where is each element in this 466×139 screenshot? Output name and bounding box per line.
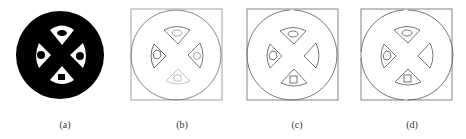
panel-d: (d) <box>348 0 464 139</box>
panel-label-a: (a) <box>45 119 85 130</box>
panel-label-d: (d) <box>392 119 432 130</box>
panel-label-c: (c) <box>277 119 317 130</box>
panel-label-b: (b) <box>162 119 202 130</box>
panel-a: (a) <box>0 0 116 139</box>
panel-c: (c) <box>232 0 348 139</box>
panel-b: (b) <box>116 0 232 139</box>
